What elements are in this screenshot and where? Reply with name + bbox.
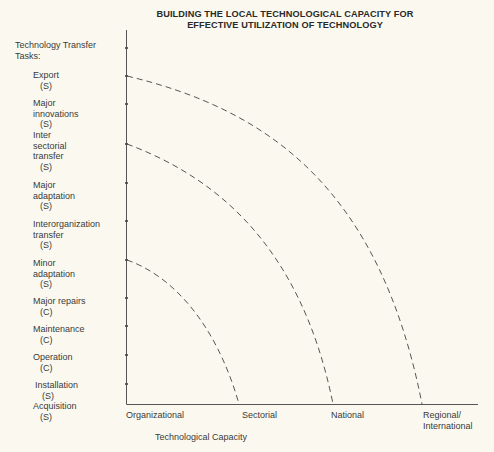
x-label-regional: Regional/ bbox=[423, 410, 473, 421]
x-axis-title: Technological Capacity bbox=[155, 432, 247, 442]
curve-regional-international bbox=[127, 76, 422, 404]
x-label-organizational: Organizational bbox=[126, 410, 184, 421]
x-label-international: International bbox=[423, 421, 473, 432]
x-label-national: National bbox=[331, 410, 364, 421]
x-label-sectorial: Sectorial bbox=[242, 410, 277, 421]
x-label-regional-international: Regional/ International bbox=[423, 410, 473, 431]
curve-sectorial bbox=[127, 260, 239, 404]
diagram-canvas bbox=[0, 0, 494, 452]
curve-national bbox=[127, 144, 333, 404]
